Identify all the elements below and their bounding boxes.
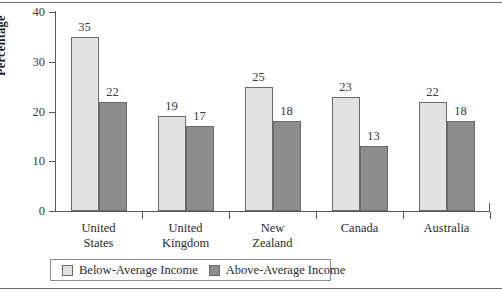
legend-label-above-average: Above-Average Income bbox=[226, 263, 346, 278]
bar-value-label: 23 bbox=[339, 80, 352, 95]
bar bbox=[332, 97, 360, 211]
y-axis-tick bbox=[49, 211, 55, 212]
bar bbox=[158, 116, 186, 211]
bar bbox=[99, 102, 127, 211]
bar-value-label: 22 bbox=[106, 85, 119, 100]
legend-item-above-average: Above-Average Income bbox=[209, 263, 346, 278]
x-axis-tick bbox=[229, 212, 230, 219]
bar-value-label: 22 bbox=[426, 85, 439, 100]
plot-area: 35221917251823132218 bbox=[55, 12, 490, 211]
bar bbox=[71, 37, 99, 211]
x-axis-tick bbox=[142, 212, 143, 219]
bottom-rule bbox=[0, 288, 502, 289]
y-axis-tick-label: 0 bbox=[39, 204, 45, 219]
y-axis-title: Percentage bbox=[0, 15, 9, 76]
bar-value-label: 13 bbox=[367, 129, 380, 144]
legend-swatch-icon-below-average bbox=[62, 265, 73, 276]
x-axis-tick bbox=[316, 212, 317, 219]
chart-legend: Below-Average Income Above-Average Incom… bbox=[50, 259, 331, 281]
x-axis-category-label: UnitedStates bbox=[81, 221, 115, 251]
legend-item-below-average: Below-Average Income bbox=[62, 263, 198, 278]
legend-label-below-average: Below-Average Income bbox=[79, 263, 198, 278]
bar-value-label: 18 bbox=[454, 104, 467, 119]
bar bbox=[186, 126, 214, 211]
bar bbox=[360, 146, 388, 211]
y-axis-tick-label: 30 bbox=[33, 54, 46, 69]
bar bbox=[419, 102, 447, 211]
x-axis-tick bbox=[490, 212, 491, 219]
bar-value-label: 18 bbox=[280, 104, 293, 119]
x-axis-category-label: Australia bbox=[424, 221, 470, 236]
bar-value-label: 35 bbox=[78, 20, 91, 35]
bar-chart-figure: Percentage 010203040 3522191725182313221… bbox=[0, 0, 502, 293]
bar bbox=[245, 87, 273, 211]
bar-value-label: 17 bbox=[193, 109, 206, 124]
x-axis-line bbox=[55, 211, 490, 212]
x-axis-tick bbox=[403, 212, 404, 219]
x-axis-category-label: UnitedKingdom bbox=[162, 221, 209, 251]
bar bbox=[447, 121, 475, 211]
x-axis-category-label: NewZealand bbox=[252, 221, 292, 251]
x-axis-category-label: Canada bbox=[341, 221, 378, 236]
top-rule bbox=[0, 2, 502, 3]
legend-swatch-icon-above-average bbox=[209, 265, 220, 276]
bar-value-label: 19 bbox=[165, 99, 178, 114]
y-axis-tick-label: 40 bbox=[33, 5, 46, 20]
y-axis-tick-label: 20 bbox=[33, 104, 46, 119]
bar bbox=[273, 121, 301, 211]
bar-value-label: 25 bbox=[252, 70, 265, 85]
y-axis-tick-label: 10 bbox=[33, 154, 46, 169]
